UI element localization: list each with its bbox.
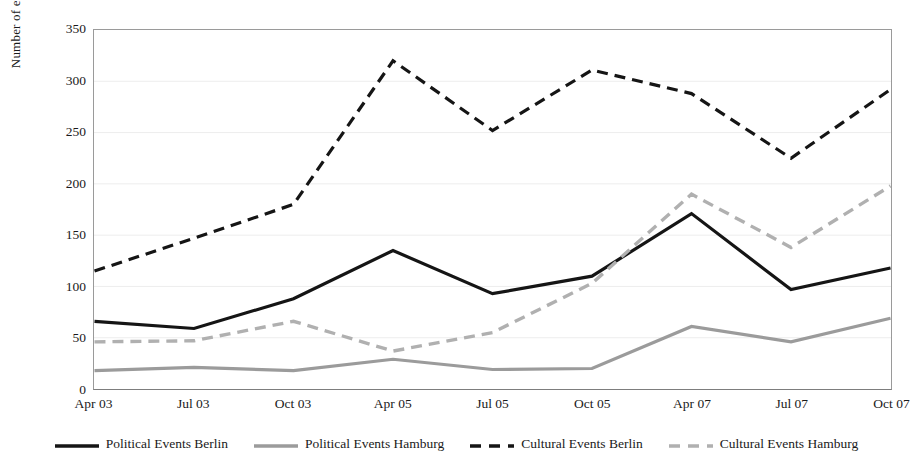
gridlines [94,81,891,337]
series-lines [94,61,890,371]
y-axis-tick-label: 250 [66,124,86,140]
legend-label: Cultural Events Hamburg [720,436,858,452]
x-axis-tick-label: Apr 03 [75,396,113,412]
x-axis-tick-label: Apr 07 [673,396,711,412]
legend-item[interactable]: Cultural Events Hamburg [669,436,858,452]
legend-label: Cultural Events Berlin [521,436,642,452]
legend-swatch-icon [669,438,713,450]
x-axis-tick-label: Jul 05 [476,396,509,412]
chart-legend: Political Events BerlinPolitical Events … [0,436,913,452]
x-axis-tick-label: Oct 05 [574,396,610,412]
x-axis-tick-label: Oct 03 [275,396,311,412]
plot-area [93,29,892,390]
y-axis-title: Number of events [8,0,24,120]
y-axis-tick-label: 50 [73,330,87,346]
x-axis-tick-label: Oct 07 [873,396,909,412]
x-axis-tick-label: Jul 07 [775,396,808,412]
line-chart: Number of events 050100150200250300350 A… [0,0,913,469]
series-line [94,318,890,370]
legend-label: Political Events Hamburg [305,436,444,452]
legend-item[interactable]: Political Events Berlin [55,436,228,452]
x-axis-tick-label: Jul 03 [177,396,210,412]
legend-item[interactable]: Cultural Events Berlin [470,436,642,452]
series-line [94,61,890,271]
series-line [94,186,890,351]
y-axis-tick-label: 300 [66,73,86,89]
legend-swatch-icon [254,438,298,450]
legend-label: Political Events Berlin [106,436,228,452]
y-axis-tick-label: 200 [66,176,86,192]
y-axis-tick-label: 150 [66,227,86,243]
x-axis-tick-label: Apr 05 [374,396,412,412]
y-axis-tick-label: 350 [66,21,86,37]
y-axis-tick-label: 100 [66,279,86,295]
legend-swatch-icon [470,438,514,450]
plot-svg [94,30,891,389]
x-axis-tick-labels: Apr 03Jul 03Oct 03Apr 05Jul 05Oct 05Apr … [93,396,892,420]
legend-swatch-icon [55,438,99,450]
legend-item[interactable]: Political Events Hamburg [254,436,444,452]
